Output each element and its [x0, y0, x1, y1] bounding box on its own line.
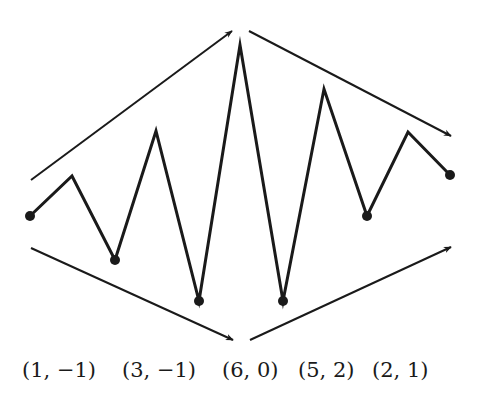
zigzag-diagram [0, 0, 478, 412]
lower-right-arrow [250, 247, 451, 340]
lower-left-arrow [31, 248, 233, 340]
vertex-dot-6 [445, 170, 455, 180]
vertex-dots [25, 170, 455, 306]
label-2: (3, −1) [122, 360, 196, 381]
vertex-dot-4 [278, 296, 288, 306]
vertex-dot-3 [194, 296, 204, 306]
label-3: (6, 0) [222, 360, 278, 381]
arrows [31, 31, 451, 340]
vertex-dot-5 [362, 211, 372, 221]
zigzag-path [30, 45, 450, 301]
label-1: (1, −1) [22, 360, 96, 381]
vertex-dot-1 [25, 211, 35, 221]
vertex-dot-2 [110, 255, 120, 265]
label-4: (5, 2) [298, 360, 354, 381]
upper-left-arrow [31, 31, 232, 180]
upper-right-arrow [249, 31, 451, 136]
label-5: (2, 1) [372, 360, 428, 381]
